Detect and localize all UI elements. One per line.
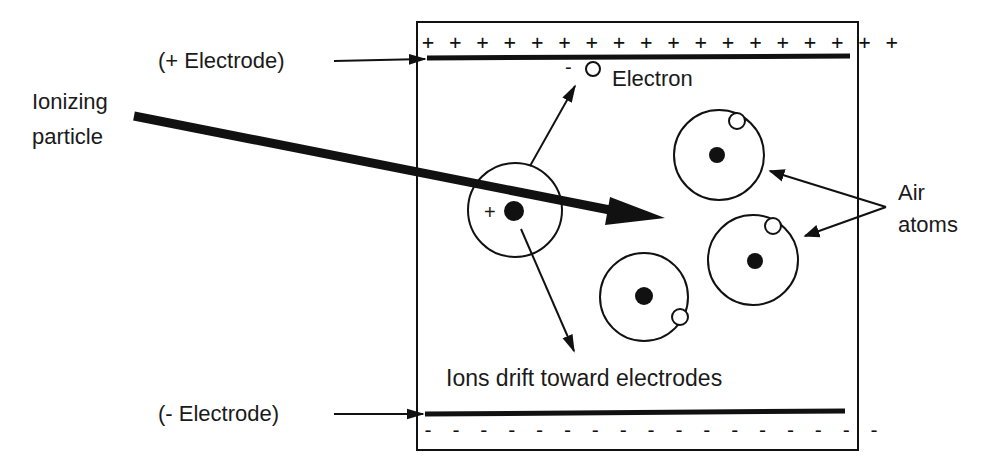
positive-electrode-plate [427,56,850,58]
electron-path-arrow [530,86,575,166]
electron-charge-sign: - [565,54,572,80]
ionizing-particle-arrowhead [605,197,665,225]
electron [586,62,600,76]
air-atom-1-electron [729,113,745,129]
air-atom-1-nucleus [709,147,725,163]
positive-electrode-pointer [334,59,425,61]
air-atom-2-electron [765,218,781,234]
air-atoms-pointer-2 [805,207,886,236]
air-atom-3-nucleus [635,287,653,305]
air-atoms-pointer-1 [770,171,886,207]
ionizing-particle-label-line1: Ionizing [32,89,108,115]
negative-electrode-label: (- Electrode) [158,401,279,427]
positive-charges: + + + + + + + + + + + + + + + + + + [422,30,899,54]
air-atoms-label-line1: Air [898,180,925,206]
ionizing-particle-label-line2: particle [32,124,103,150]
ionization-chamber-diagram [0,0,996,475]
positive-electrode-label: (+ Electrode) [158,48,285,74]
negative-charges: - - - - - - - - - - - - - - - - - [422,418,882,442]
ionized-atom-nucleus [504,201,524,221]
air-atom-2-nucleus [747,253,763,269]
electron-label: Electron [612,66,693,92]
air-atoms-label-line2: atoms [898,212,958,238]
air-atom-3-electron [672,309,688,325]
ion-drift-arrow [521,229,574,351]
ion-charge-sign: + [484,199,496,225]
ions-drift-label: Ions drift toward electrodes [446,365,722,391]
ionizing-particle-track [134,116,615,211]
negative-electrode-plate [425,411,845,414]
